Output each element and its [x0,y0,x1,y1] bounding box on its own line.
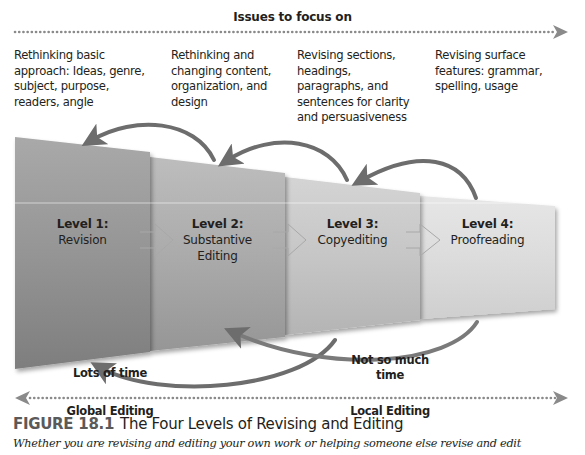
lots-of-time-label: Lots of time [40,366,180,381]
level-name: Editing [150,248,285,264]
panel-level-4 [420,196,555,319]
figure-title-text: The Four Levels of Revising and Editing [120,415,403,433]
not-so-much-time-label: Not so much time [320,353,460,383]
panel-level-3 [285,177,420,335]
top-dotted-arrow [15,25,568,39]
level-1-label: Level 1: Revision [15,216,150,248]
level-name: Revision [58,233,107,247]
level-2-label: Level 2: Substantive Editing [150,216,285,264]
figure-number: FIGURE 18.1 [13,415,114,433]
level-number: Level 1: [15,216,150,232]
level-name: Proofreading [451,233,525,247]
level-name: Substantive [150,232,285,248]
level-number: Level 2: [150,216,285,232]
figure-caption: Whether you are revising and editing you… [13,437,521,450]
level-name: Copyediting [318,233,388,247]
bottom-dotted-double-arrow [15,391,568,405]
figure-title: FIGURE 18.1The Four Levels of Revising a… [13,415,403,433]
level-number: Level 3: [285,216,420,232]
time-line: Not so much [320,353,460,368]
level-4-label: Level 4: Proofreading [420,216,555,248]
panel-level-1 [15,137,150,369]
level-3-label: Level 3: Copyediting [285,216,420,248]
level-number: Level 4: [420,216,555,232]
time-line: time [320,368,460,383]
